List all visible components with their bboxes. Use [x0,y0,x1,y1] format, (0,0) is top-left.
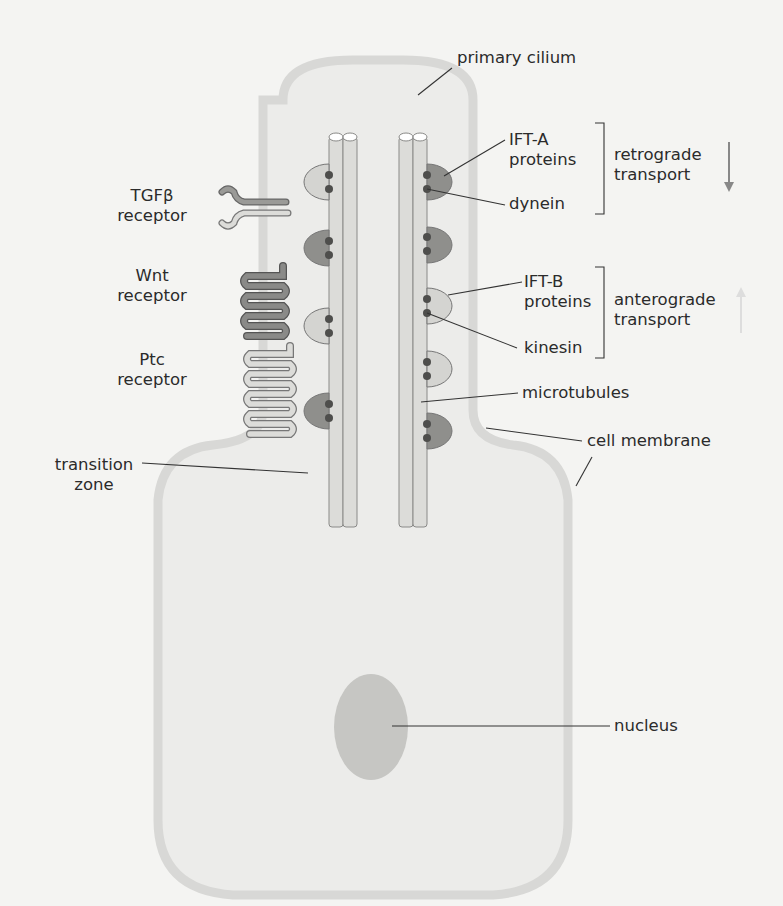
label-kinesin: kinesin [524,338,582,358]
transport-arrows [724,142,746,333]
label-dynein: dynein [509,194,565,214]
brackets [595,123,604,358]
label-primary-cilium: primary cilium [457,48,576,68]
label-ift-a-proteins: IFT-A proteins [509,130,576,170]
nucleus [334,674,408,780]
label-ift-b-proteins: IFT-B proteins [524,272,591,312]
label-nucleus: nucleus [614,716,678,736]
cilium-diagram [0,0,783,906]
label-ptc-receptor: Ptc receptor [115,350,189,390]
label-retrograde-transport: retrograde transport [614,145,702,185]
label-transition-zone: transition zone [48,455,140,495]
label-tgfb-receptor: TGFβ receptor [115,186,189,226]
label-wnt-receptor: Wnt receptor [115,266,189,306]
label-anterograde-transport: anterograde transport [614,290,716,330]
label-microtubules: microtubules [522,383,629,403]
label-cell-membrane: cell membrane [587,431,711,451]
